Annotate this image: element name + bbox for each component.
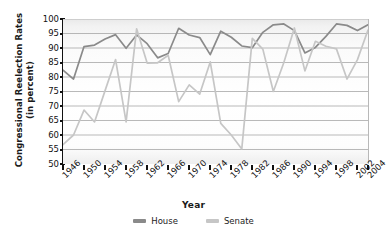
x-axis-title: Year [0,200,387,210]
y-axis-tick-label: 70 [33,102,59,111]
y-axis-tick-label: 55 [33,145,59,154]
legend-item-house[interactable]: House [133,216,178,226]
legend-swatch-icon [206,219,219,223]
series-line-senate [63,28,368,149]
plot-area [63,19,369,164]
y-axis-tick-label: 65 [33,116,59,125]
y-axis-tick-label: 85 [33,58,59,67]
y-axis-tick-label: 75 [33,87,59,96]
chart-figure: Congressional Reelection Rates (in perce… [0,0,387,236]
y-axis-tick-label: 80 [33,73,59,82]
y-axis-tick-label: 90 [33,44,59,53]
chart-lines [63,19,368,164]
legend-swatch-icon [133,219,146,223]
legend-label: Senate [224,216,254,226]
legend-label: House [151,216,178,226]
legend-item-senate[interactable]: Senate [206,216,254,226]
y-axis-tick-label: 100 [33,15,59,24]
chart-legend: HouseSenate [0,216,387,226]
series-line-house [63,24,368,79]
y-axis-tick-label: 60 [33,131,59,140]
y-axis-tick-label: 95 [33,29,59,38]
y-axis-title-line-1: Congressional Reelection Rates [14,10,25,170]
y-axis-tick-label: 50 [33,160,59,169]
